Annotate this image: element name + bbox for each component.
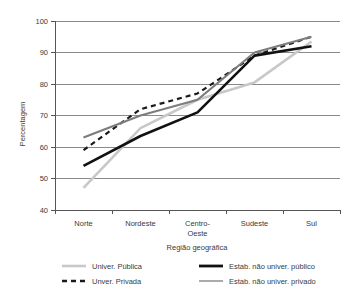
x-tick-label: Nordeste xyxy=(125,219,155,228)
x-tick-label: Sudeste xyxy=(241,219,269,228)
y-tick-label: 40 xyxy=(40,206,48,215)
x-tick-label-line2: Oeste xyxy=(187,229,207,238)
x-tick-label: Norte xyxy=(74,219,92,228)
x-tick-label: Sul xyxy=(306,219,317,228)
chart-container: 405060708090100 NorteNordesteCentro-Oest… xyxy=(0,0,353,299)
legend-label: Univer. Pública xyxy=(92,262,143,271)
y-tick-label: 70 xyxy=(40,111,48,120)
x-axis-title: Região geográfica xyxy=(167,243,229,252)
y-tick-label: 60 xyxy=(40,143,48,152)
legend-label: Estab. não univer. público xyxy=(229,262,315,271)
y-tick-label: 50 xyxy=(40,174,48,183)
legend-label: Estab. não univer. privado xyxy=(229,277,316,286)
y-tick-label: 80 xyxy=(40,80,48,89)
chart-background xyxy=(0,0,353,299)
y-tick-label: 90 xyxy=(40,48,48,57)
x-tick-label: Centro- xyxy=(185,219,211,228)
y-axis-title: Percentagem xyxy=(18,102,27,147)
line-chart: 405060708090100 NorteNordesteCentro-Oest… xyxy=(0,0,353,299)
legend-label: Unver. Privada xyxy=(92,277,142,286)
y-tick-label: 100 xyxy=(35,17,48,26)
